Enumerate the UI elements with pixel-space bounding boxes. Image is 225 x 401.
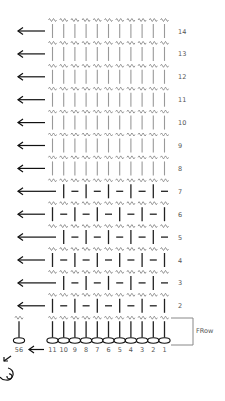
chain-wave-icon bbox=[82, 133, 90, 136]
chain-wave-icon bbox=[93, 202, 101, 205]
row-number-label: 12 bbox=[178, 73, 186, 81]
stitch-rows: 141312111098765432 bbox=[18, 19, 186, 313]
chain-oval-icon bbox=[81, 338, 92, 343]
chain-wave-icon bbox=[149, 316, 157, 319]
row-number-label: 9 bbox=[178, 142, 182, 150]
chain-wave-icon bbox=[149, 156, 157, 159]
chain-wave-icon bbox=[105, 133, 113, 136]
chain-wave-icon bbox=[116, 19, 124, 22]
chain-wave-icon bbox=[93, 64, 101, 67]
chain-wave-icon bbox=[60, 179, 68, 182]
chain-wave-icon bbox=[60, 87, 68, 90]
stitch-row-8: 8 bbox=[18, 156, 182, 176]
foundation-row: 111098765432156FRow bbox=[0, 316, 214, 380]
chain-wave-icon bbox=[82, 248, 90, 251]
chain-wave-icon bbox=[116, 293, 124, 296]
chain-wave-icon bbox=[127, 133, 135, 136]
chain-wave-icon bbox=[93, 225, 101, 228]
chain-number-label: 6 bbox=[106, 346, 110, 354]
stitch-row-7: 7 bbox=[18, 179, 182, 199]
chain-wave-icon bbox=[138, 293, 146, 296]
chain-wave-icon bbox=[138, 133, 146, 136]
chain-wave-icon bbox=[138, 87, 146, 90]
chain-wave-icon bbox=[138, 41, 146, 44]
chain-wave-icon bbox=[161, 225, 169, 228]
row-number-label: 4 bbox=[178, 257, 182, 265]
direction-arrow-icon bbox=[18, 302, 45, 309]
chain-wave-icon bbox=[71, 179, 79, 182]
chain-wave-icon bbox=[60, 110, 68, 113]
chain-wave-icon bbox=[105, 225, 113, 228]
direction-arrow-icon bbox=[18, 211, 45, 218]
chain-wave-icon bbox=[82, 225, 90, 228]
stitch-row-13: 13 bbox=[18, 41, 186, 61]
chain-wave-icon bbox=[116, 270, 124, 273]
chain-wave-icon bbox=[149, 19, 157, 22]
chain-wave-icon bbox=[116, 248, 124, 251]
chain-oval-icon bbox=[159, 338, 170, 343]
chain-oval-icon bbox=[114, 338, 125, 343]
chain-wave-icon bbox=[105, 41, 113, 44]
chain-wave-icon bbox=[71, 225, 79, 228]
chain-wave-icon bbox=[149, 41, 157, 44]
direction-arrow-icon bbox=[18, 28, 45, 35]
chain-wave-icon bbox=[82, 19, 90, 22]
chain-wave-icon bbox=[116, 64, 124, 67]
chain-wave-icon bbox=[71, 41, 79, 44]
chain-oval-icon bbox=[47, 338, 58, 343]
chain-number-label: 3 bbox=[140, 346, 144, 354]
chain-wave-icon bbox=[161, 248, 169, 251]
chain-wave-icon bbox=[49, 133, 57, 136]
direction-arrow-icon bbox=[18, 257, 45, 264]
stitch-row-11: 11 bbox=[18, 87, 186, 107]
chain-wave-icon bbox=[49, 19, 57, 22]
chain-wave-icon bbox=[105, 19, 113, 22]
chain-wave-icon bbox=[93, 179, 101, 182]
chain-wave-icon bbox=[82, 270, 90, 273]
chain-wave-icon bbox=[138, 225, 146, 228]
chain-oval-icon bbox=[137, 338, 148, 343]
chain-wave-icon bbox=[82, 179, 90, 182]
chain-wave-icon bbox=[60, 248, 68, 251]
chain-oval-icon bbox=[92, 338, 103, 343]
chain-wave-icon bbox=[138, 248, 146, 251]
chain-wave-icon bbox=[138, 110, 146, 113]
chain-wave-icon bbox=[138, 316, 146, 319]
chain-wave-icon bbox=[116, 156, 124, 159]
stitch-row-4: 4 bbox=[18, 248, 182, 268]
row-number-label: 11 bbox=[178, 96, 186, 104]
chain-wave-icon bbox=[82, 316, 90, 319]
chain-wave-icon bbox=[116, 179, 124, 182]
chain-wave-icon bbox=[138, 202, 146, 205]
chain-wave-icon bbox=[149, 225, 157, 228]
chain-wave-icon bbox=[161, 87, 169, 90]
chain-wave-icon bbox=[149, 110, 157, 113]
chain-number-label: 4 bbox=[129, 346, 133, 354]
chain-number-label: 1 bbox=[162, 346, 166, 354]
direction-arrow-icon bbox=[18, 96, 45, 103]
direction-arrow-icon bbox=[18, 279, 45, 286]
chain-wave-icon bbox=[49, 202, 57, 205]
chain-wave-icon bbox=[127, 248, 135, 251]
chain-wave-icon bbox=[127, 293, 135, 296]
chain-wave-icon bbox=[60, 156, 68, 159]
chain-wave-icon bbox=[105, 64, 113, 67]
chain-number-label: 11 bbox=[48, 346, 56, 354]
chain-wave-icon bbox=[82, 293, 90, 296]
foundation-row-label: FRow bbox=[196, 327, 214, 335]
row-number-label: 13 bbox=[178, 50, 186, 58]
chain-wave-icon bbox=[127, 202, 135, 205]
stitch-row-6: 6 bbox=[18, 202, 182, 222]
chain-wave-icon bbox=[138, 19, 146, 22]
start-spiral-icon bbox=[0, 356, 13, 380]
chain-wave-icon bbox=[116, 110, 124, 113]
chain-wave-icon bbox=[49, 316, 57, 319]
chain-oval-icon bbox=[148, 338, 159, 343]
chain-wave-icon bbox=[116, 202, 124, 205]
stitch-row-3: 3 bbox=[18, 270, 182, 290]
row-number-label: 8 bbox=[178, 165, 182, 173]
chain-wave-icon bbox=[60, 64, 68, 67]
chain-wave-icon bbox=[127, 64, 135, 67]
chain-wave-icon bbox=[127, 19, 135, 22]
chain-wave-icon bbox=[71, 110, 79, 113]
